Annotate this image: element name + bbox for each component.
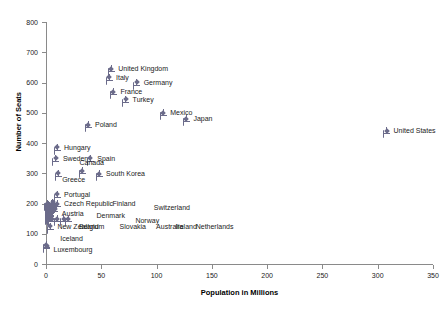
data-point-label: Netherlands [196, 223, 234, 230]
marker-spoke [133, 85, 140, 86]
x-axis-line [46, 264, 433, 265]
data-point-label: Italy [116, 74, 129, 81]
data-point-label: Finland [113, 200, 136, 207]
marker-spoke [110, 94, 117, 95]
y-tick-label: 300 [10, 170, 38, 177]
marker-spoke [55, 176, 62, 177]
data-point-label: South Korea [106, 170, 145, 177]
x-tick-label: 50 [86, 272, 116, 279]
scatter-chart: 0100200300400500600700800 05010015020025… [0, 0, 443, 312]
x-tick-label: 250 [307, 272, 337, 279]
marker-spoke [383, 133, 390, 134]
data-point-label: Denmark [97, 212, 125, 219]
data-point-label: France [120, 88, 142, 95]
x-tick [378, 265, 379, 269]
y-tick-label: 0 [10, 261, 38, 268]
data-point-label: United Kingdom [118, 65, 168, 72]
x-tick [433, 265, 434, 269]
data-point-label: Slovakia [120, 223, 146, 230]
marker-spoke [47, 229, 54, 230]
marker-spoke [183, 121, 190, 122]
x-tick-label: 200 [252, 272, 282, 279]
data-point-label: Hungary [64, 144, 90, 151]
y-tick-label: 600 [10, 79, 38, 86]
y-tick-label: 700 [10, 49, 38, 56]
data-point-label: Switzerland [154, 204, 190, 211]
y-tick-label: 800 [10, 19, 38, 26]
marker-spoke [122, 102, 129, 103]
y-tick-label: 100 [10, 230, 38, 237]
data-point-label: Greece [62, 176, 85, 183]
data-point-label: United States [394, 127, 436, 134]
marker-spoke [52, 161, 59, 162]
data-point-label: Poland [95, 121, 117, 128]
marker-spoke [160, 115, 167, 116]
x-tick-label: 300 [363, 272, 393, 279]
data-point-label: Luxembourg [54, 246, 93, 253]
x-tick [322, 265, 323, 269]
data-point-label: Turkey [133, 96, 154, 103]
data-point-label: New Zealand [57, 223, 98, 230]
data-point-label: Czech Republic [64, 200, 113, 207]
x-tick [157, 265, 158, 269]
marker-spoke [85, 127, 92, 128]
marker-spoke [54, 150, 61, 151]
marker-spoke [96, 176, 103, 177]
data-point-label: Japan [193, 115, 212, 122]
x-tick [101, 265, 102, 269]
data-point-label: Australia [156, 223, 183, 230]
x-tick [267, 265, 268, 269]
x-axis-title: Population in Millions [46, 289, 433, 297]
marker-spoke [106, 80, 113, 81]
x-tick [46, 265, 47, 269]
marker-spoke [54, 197, 61, 198]
y-axis-title: Number of Seats [15, 67, 23, 177]
marker-spoke [79, 173, 86, 174]
data-point-label: Canada [79, 159, 104, 166]
x-tick-label: 0 [31, 272, 61, 279]
x-tick-label: 350 [418, 272, 443, 279]
marker-spoke [43, 248, 50, 249]
data-point-label: Germany [144, 79, 173, 86]
marker-spoke [108, 71, 115, 72]
data-point-label: Portugal [64, 191, 90, 198]
x-tick-label: 150 [197, 272, 227, 279]
x-tick-label: 100 [142, 272, 172, 279]
y-tick-label: 200 [10, 200, 38, 207]
x-tick [212, 265, 213, 269]
data-point-label: Iceland [60, 235, 83, 242]
